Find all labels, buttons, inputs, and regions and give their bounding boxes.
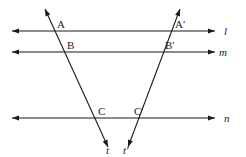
point-label-A: A <box>57 18 65 30</box>
arrow-left-icon <box>12 49 19 54</box>
transversal-label-t_prime: t′ <box>123 144 129 156</box>
arrow-up-icon <box>45 9 50 16</box>
arrow-left-icon <box>12 28 19 33</box>
labels-layer: lmntt′ABCA′B′C′ <box>57 18 230 156</box>
line-label-m: m <box>219 46 227 58</box>
arrow-right-icon <box>208 28 215 33</box>
line-n <box>12 115 215 120</box>
arrow-right-icon <box>208 49 215 54</box>
arrow-right-icon <box>208 115 215 120</box>
arrow-down-icon <box>128 140 133 147</box>
transversal-diagram: lmntt′ABCA′B′C′ <box>0 0 246 157</box>
line-label-n: n <box>224 112 230 124</box>
transversal-t_prime-stroke <box>128 9 180 147</box>
arrow-left-icon <box>12 115 19 120</box>
point-label-C_prime: C′ <box>134 105 144 117</box>
transversal-t-stroke <box>45 9 108 147</box>
transversal-t <box>45 9 108 147</box>
point-label-B_prime: B′ <box>165 39 175 51</box>
arrow-up-icon <box>175 9 180 16</box>
point-label-A_prime: A′ <box>175 18 185 30</box>
line-m <box>12 49 215 54</box>
point-label-C: C <box>98 105 105 117</box>
transversal-label-t: t <box>106 144 110 156</box>
transversal-t_prime <box>128 9 180 147</box>
line-label-l: l <box>224 25 227 37</box>
point-label-B: B <box>67 39 74 51</box>
